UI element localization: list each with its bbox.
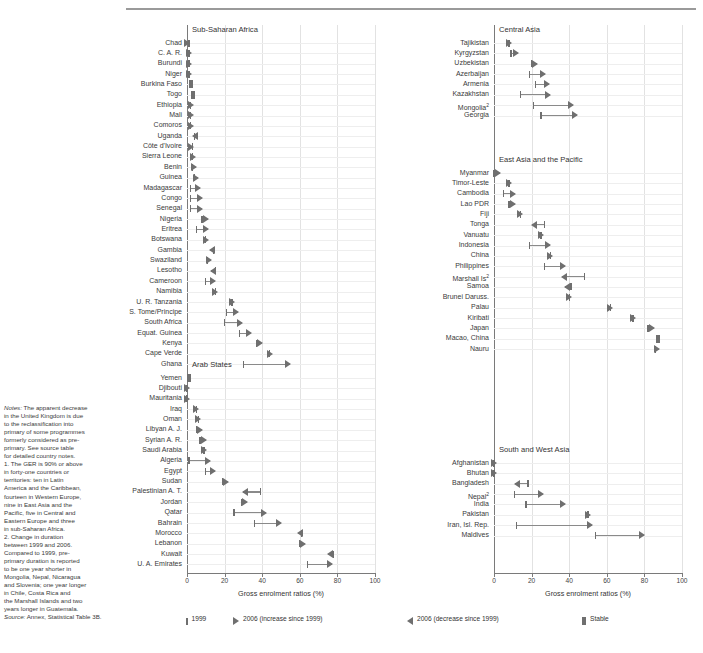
row-label: Georgia [369,111,489,119]
row-guide [187,440,375,441]
row-guide [187,147,375,148]
marker-2006-increase [188,111,194,119]
source-line: Source: Annex, Statistical Table 3B. [4,613,124,621]
row-label: Fiji [369,210,489,218]
marker-2006-increase [195,184,201,192]
row-guide [187,482,375,483]
row-guide [494,84,682,85]
stable-bar-icon [582,617,586,625]
connector-line [243,364,290,365]
row-label: India [369,500,489,508]
legend-item-1999: 1999 [186,617,206,625]
row-guide [494,173,682,174]
marker-2006-increase [193,405,199,413]
notes-line: Mongolia, Nepal, Nicaragua [4,573,124,581]
marker-2006-increase [300,540,306,548]
marker-2006-increase [654,345,660,353]
marker-2006-increase [545,91,551,99]
marker-1999 [233,509,234,516]
row-label: Guinea [62,173,182,181]
row-guide [494,53,682,54]
marker-2006-decrease [514,480,520,488]
row-label: Comoros [62,121,182,129]
row-guide [187,554,375,555]
row-label: Uganda [62,132,182,140]
row-label-superscript: 2 [486,273,489,279]
connector-line [596,535,645,536]
marker-1999 [595,532,596,539]
row-label: Indonesia [369,241,489,249]
marker-2006-decrease [561,273,567,281]
row-label: Madagascar [62,184,182,192]
x-axis-title: Gross enrolment ratios (%) [167,589,395,598]
marker-2006-increase [193,174,199,182]
marker-1999 [525,501,526,508]
marker-2006-decrease [564,283,570,291]
marker-2006-increase [585,511,591,519]
row-label: C. A. R. [62,49,182,57]
row-label: Nauru [369,345,489,353]
row-guide [494,536,682,537]
row-label: Lebanon [62,539,182,547]
row-guide [187,188,375,189]
marker-1999 [239,330,240,337]
marker-2006-increase [510,200,516,208]
row-label: Mali [62,111,182,119]
marker-2006-increase [203,215,209,223]
marker-2006-increase [538,490,544,498]
marker-1999 [533,102,534,109]
row-guide [187,136,375,137]
row-label: Botswana [62,235,182,243]
marker-2006-increase [201,436,207,444]
row-guide [187,399,375,400]
marker-2006-increase [188,101,194,109]
row-guide [187,219,375,220]
row-guide [187,333,375,334]
row-label: Burkina Faso [62,80,182,88]
marker-2006-increase [506,179,512,187]
marker-2006-increase [649,324,655,332]
row-guide [187,250,375,251]
marker-2006-decrease [327,550,333,558]
gridline-100 [682,25,683,573]
marker-1999 [196,226,197,233]
marker-2006-increase [540,70,546,78]
legend-label-1999: 1999 [192,615,207,622]
marker-2006-increase [212,288,218,296]
row-guide [494,194,682,195]
notes-line: in Chile, Costa Rica and [4,589,124,597]
marker-2006-increase [267,350,273,358]
row-guide [187,323,375,324]
marker-2006-increase [566,293,572,301]
row-label: Syrian A. R. [62,436,182,444]
row-label: Philippines [369,262,489,270]
row-label: Gambia [62,246,182,254]
notes-label: Notes: [4,404,22,411]
row-label: Eritrea [62,225,182,233]
marker-1999 [226,309,227,316]
row-label: Yemen [62,374,182,382]
row-label: Togo [62,90,182,98]
x-tick-label: 0 [479,577,509,584]
row-label: South Africa [62,318,182,326]
row-guide [494,463,682,464]
row-guide [494,43,682,44]
marker-2006-increase [607,304,613,312]
legend-label-stable: Stable [590,615,609,622]
marker-2006-increase [560,262,566,270]
marker-2006-increase [186,49,192,57]
marker-2006-increase [510,190,516,198]
row-label: Japan [369,324,489,332]
row-guide [494,339,682,340]
row-label: Vanuatu [369,231,489,239]
row-guide [187,157,375,158]
marker-2006-increase [639,531,645,539]
row-label: Bangladesh [369,479,489,487]
row-label: Congo [62,194,182,202]
triangle-left-icon [407,617,413,625]
row-label: Lesotho [62,266,182,274]
row-label: Sierra Leone [62,152,182,160]
row-label: Niger [62,70,182,78]
marker-2006-increase [491,459,497,467]
row-guide [187,492,375,493]
